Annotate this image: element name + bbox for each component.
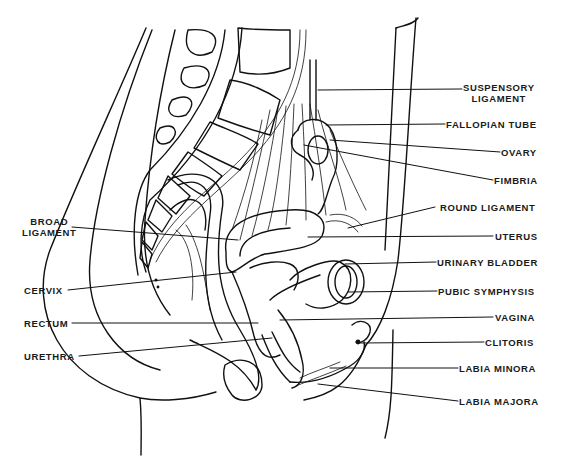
label-suspensory-ligament: SUSPENSORY LIGAMENT: [463, 82, 535, 104]
label-pubic-symphysis: PUBIC SYMPHYSIS: [438, 286, 535, 297]
uterus-organ: [226, 210, 324, 357]
label-cervix: CERVIX: [24, 285, 63, 296]
label-labia-majora: LABIA MAJORA: [459, 396, 539, 407]
label-line: SUSPENSORY: [463, 82, 535, 93]
label-line: LIGAMENT: [22, 227, 76, 238]
external-genitalia: [262, 321, 370, 386]
label-labia-minora: LABIA MINORA: [459, 363, 536, 374]
leader-lines-left: [68, 227, 272, 356]
label-round-ligament: ROUND LIGAMENT: [440, 202, 535, 213]
label-ovary: OVARY: [501, 147, 537, 158]
label-clitoris: CLITORIS: [485, 337, 534, 348]
label-urinary-bladder: URINARY BLADDER: [437, 257, 538, 268]
label-fimbria: FIMBRIA: [494, 175, 538, 186]
label-uterus: UTERUS: [495, 231, 538, 242]
label-fallopian-tube: FALLOPIAN TUBE: [446, 119, 537, 130]
label-urethra: URETHRA: [24, 351, 75, 362]
bladder-organ: [270, 260, 364, 388]
label-vagina: VAGINA: [495, 312, 535, 323]
label-line: LIGAMENT: [463, 93, 535, 104]
label-line: BROAD: [22, 216, 76, 227]
label-broad-ligament: BROAD LIGAMENT: [22, 216, 76, 238]
label-rectum: RECTUM: [24, 318, 68, 329]
ovary-tube-organ: [291, 60, 362, 232]
